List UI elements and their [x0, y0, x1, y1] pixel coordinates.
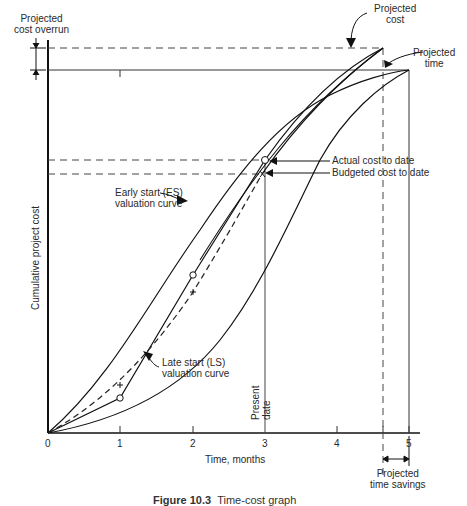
x-tick-4: 4 [334, 438, 340, 449]
late-start-curve-label: Late start (LS) valuation curve [162, 357, 229, 379]
y-axis-label: Cumulative project cost [30, 206, 41, 310]
label-line: cost [374, 14, 416, 25]
label-line: Present [250, 386, 261, 420]
label-line: Projected [374, 3, 416, 14]
projected-cost-overrun-label: Projected cost overrun [14, 13, 69, 35]
cost-overrun-dimension [30, 38, 46, 80]
label-line: Early start (ES) [115, 187, 183, 198]
label-line: Projected [370, 468, 426, 479]
label-line: cost overrun [14, 24, 69, 35]
x-tick-5: 5 [406, 438, 412, 449]
x-tick-2: 2 [190, 438, 196, 449]
revised-curve [200, 48, 383, 260]
label-line: Late start (LS) [162, 357, 229, 368]
label-line: date [261, 386, 272, 420]
x-axis-label: Time, months [205, 454, 265, 465]
label-line: valuation curve [162, 368, 229, 379]
present-date-label: Present date [250, 386, 272, 420]
label-line: Projected [413, 47, 455, 58]
label-line: Projected [14, 13, 69, 24]
x-tick-0: 0 [45, 438, 51, 449]
leader-arrows [149, 13, 423, 367]
caption-number: Figure 10.3 [153, 494, 211, 506]
label-line: time [413, 58, 455, 69]
actual-cost-to-date-label: Actual cost to date [332, 155, 414, 166]
projected-cost-label: Projected cost [374, 3, 416, 25]
label-line: time savings [370, 479, 426, 490]
budgeted-cost-line [48, 174, 262, 433]
figure-caption: Figure 10.3 Time-cost graph [153, 494, 296, 506]
budgeted-cost-to-date-label: Budgeted cost to date [332, 167, 429, 178]
x-tick-3: 3 [262, 438, 268, 449]
label-line: valuation curve [115, 198, 183, 209]
caption-title: Time-cost graph [217, 494, 296, 506]
projected-time-savings-label: Projected time savings [370, 468, 426, 490]
x-tick-1: 1 [117, 438, 123, 449]
projected-time-label: Projected time [413, 47, 455, 69]
early-start-curve-label: Early start (ES) valuation curve [115, 187, 183, 209]
